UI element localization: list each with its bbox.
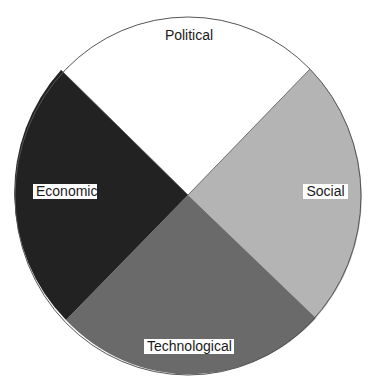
- label-economic: Economic: [33, 184, 97, 199]
- label-political: Political: [150, 28, 228, 43]
- label-technological: Technological: [144, 339, 234, 354]
- label-social: Social: [303, 184, 348, 199]
